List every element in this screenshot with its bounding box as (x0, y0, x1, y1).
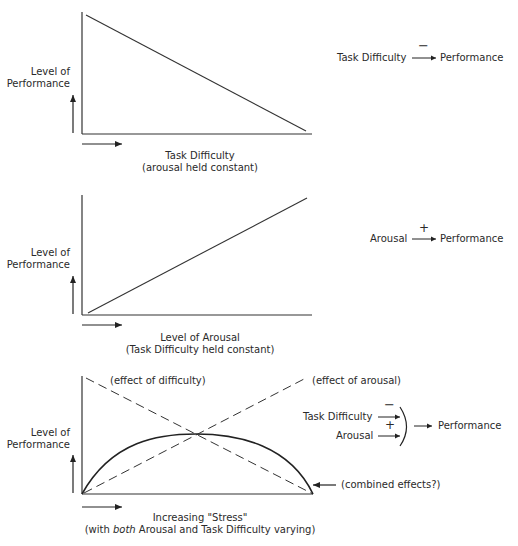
relation-effect: Performance (440, 52, 503, 64)
difficulty-effect-dashed-line (86, 378, 313, 494)
arousal-effect-dashed-line (84, 378, 306, 493)
panel-task-difficulty (73, 12, 436, 144)
x-axis-label-line2: (arousal held constant) (80, 162, 320, 174)
y-axis-label-line1: Level of (0, 427, 70, 439)
combined-effect-curve (82, 434, 313, 494)
performance-line (86, 15, 306, 131)
bracket-icon (400, 407, 407, 446)
relation-cause-difficulty: Task Difficulty (303, 411, 372, 423)
x-axis-label-line1: Task Difficulty (80, 150, 320, 162)
relation-sign-plus: + (385, 419, 395, 431)
relation-sign-minus: − (418, 40, 429, 52)
relation-cause-arousal: Arousal (336, 430, 373, 442)
relation-sign-minus: − (384, 399, 395, 411)
y-axis-label-line1: Level of (0, 66, 70, 78)
y-axis-label-line1: Level of (0, 247, 70, 259)
relation-cause: Arousal (370, 233, 407, 245)
performance-line (88, 198, 307, 313)
x-label-emphasis: both (113, 524, 136, 535)
annotation-effect-of-arousal: (effect of arousal) (312, 375, 401, 387)
x-axis-label-line1: Increasing "Stress" (60, 512, 340, 524)
y-axis-label-line2: Performance (0, 78, 70, 90)
relation-effect: Performance (438, 420, 501, 432)
relation-cause: Task Difficulty (337, 52, 406, 64)
relation-sign-plus: + (419, 222, 429, 234)
x-label-pre: (with (85, 524, 113, 535)
annotation-combined-effects: (combined effects?) (341, 479, 440, 491)
diagram-canvas (0, 0, 518, 546)
x-label-post: Arousal and Task Difficulty varying) (136, 524, 316, 535)
y-axis-label-line2: Performance (0, 439, 70, 451)
x-axis-label-line2: (with both Arousal and Task Difficulty v… (60, 524, 340, 536)
relation-effect: Performance (440, 233, 503, 245)
annotation-effect-of-difficulty: (effect of difficulty) (110, 375, 206, 387)
x-axis-label-line2: (Task Difficulty held constant) (80, 344, 320, 356)
x-axis-label-line1: Level of Arousal (80, 332, 320, 344)
panel-arousal (73, 195, 436, 325)
y-axis-label-line2: Performance (0, 259, 70, 271)
